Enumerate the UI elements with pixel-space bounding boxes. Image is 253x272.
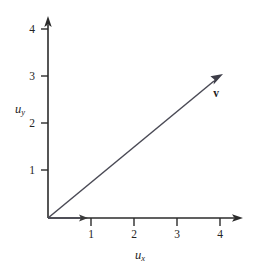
plot-canvas: 1 2 3 4 1 2 3 4 v uy ux: [0, 0, 253, 272]
x-axis-tick-label-1: 1: [88, 228, 94, 240]
y-axis-label: uy: [15, 102, 25, 117]
x-axis-tick-label-3: 3: [174, 228, 180, 240]
y-axis-tick-label-2: 2: [29, 117, 35, 129]
y-axis-label-subscript: y: [20, 107, 25, 117]
vector-v-label: v: [213, 87, 219, 99]
vector-v-line: [48, 81, 214, 218]
y-axis-tick-label-3: 3: [29, 70, 35, 82]
x-axis-tick-label-2: 2: [131, 228, 137, 240]
vector-diagram-figure: 1 2 3 4 1 2 3 4 v uy ux: [0, 0, 253, 272]
x-axis-tick-label-4: 4: [217, 228, 223, 240]
y-axis-tick-label-4: 4: [29, 23, 35, 35]
y-axis-tick-label-1: 1: [29, 164, 35, 176]
x-axis-label: ux: [135, 248, 145, 263]
x-axis-label-subscript: x: [140, 253, 145, 263]
